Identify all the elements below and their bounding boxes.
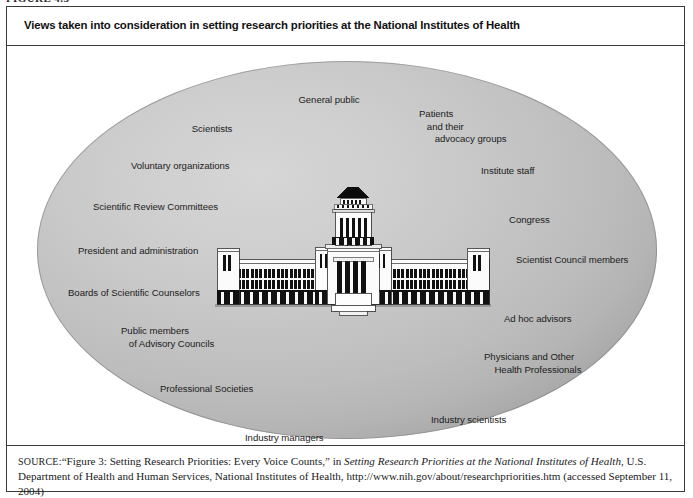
diagram-label-general-public: General public — [239, 94, 419, 107]
diagram-label-institute-staff: Institute staff — [481, 165, 534, 178]
diagram-label-industry-managers: Industry managers — [245, 432, 324, 445]
diagram-label-scientists: Scientists — [122, 123, 302, 136]
capitol-building-icon — [203, 187, 503, 318]
diagram-label-public-members: Public members of Advisory Councils — [121, 325, 214, 350]
diagram-label-scientist-council: Scientist Council members — [516, 254, 628, 267]
source-citation: SOURCE:“Figure 3: Setting Research Prior… — [18, 454, 674, 498]
source-in-word: in — [330, 455, 344, 467]
figure-number: FIGURE 4.5 — [6, 0, 69, 4]
figure-title: Views taken into consideration in settin… — [24, 19, 520, 31]
diagram-label-industry-scientists: Industry scientists — [431, 414, 506, 427]
diagram-label-scientific-review: Scientific Review Committees — [93, 201, 218, 214]
diagram-label-patients-advocacy: Patients and their advocacy groups — [419, 108, 506, 146]
diagram-label-physicians-health: Physicians and Other Health Professional… — [484, 351, 581, 376]
figure-frame: Views taken into consideration in settin… — [6, 6, 685, 492]
figure-title-band: Views taken into consideration in settin… — [7, 7, 684, 46]
source-italic-title: Setting Research Priorities at the Natio… — [344, 455, 621, 467]
diagram-canvas: General publicScientistsPatients and the… — [7, 46, 684, 446]
diagram-label-president-admin: President and administration — [78, 245, 198, 258]
diagram-label-ad-hoc-advisors: Ad hoc advisors — [504, 313, 572, 326]
diagram-label-boards-counselors: Boards of Scientific Counselors — [68, 287, 200, 300]
source-band: SOURCE:“Figure 3: Setting Research Prior… — [7, 445, 684, 491]
diagram-label-voluntary-orgs: Voluntary organizations — [131, 160, 230, 173]
source-label: SOURCE: — [18, 456, 62, 467]
diagram-label-professional-societies: Professional Societies — [160, 383, 253, 396]
source-quoted-title: “Figure 3: Setting Research Priorities: … — [62, 455, 330, 467]
diagram-label-congress: Congress — [509, 214, 550, 227]
